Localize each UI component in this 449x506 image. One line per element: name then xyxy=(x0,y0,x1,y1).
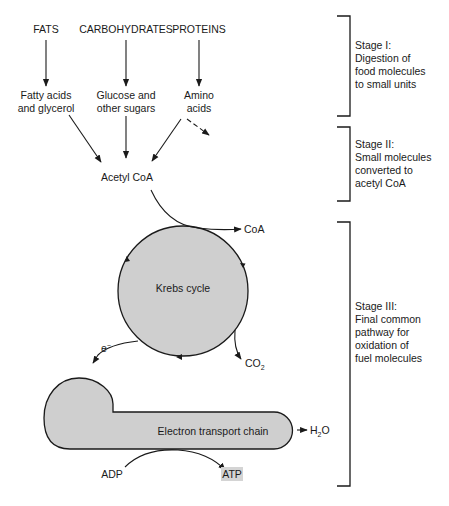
amino-acids-to-acetyl-arrow xyxy=(152,119,181,161)
stage-1-line2: food molecules xyxy=(355,65,426,77)
stage-1-line3: to small units xyxy=(355,78,416,90)
proteins-label: PROTEINS xyxy=(172,23,226,35)
carbohydrates-label: CARBOHYDRATES xyxy=(79,23,173,35)
co2-label: CO2 xyxy=(245,357,265,371)
amino-acids-line2: acids xyxy=(187,102,212,114)
electron-arrow xyxy=(93,341,138,363)
stage-3-line3: oxidation of xyxy=(355,339,409,351)
fatty-acids-line1: Fatty acids xyxy=(21,89,72,101)
amino-acids-other-fate-dashed-arrow xyxy=(187,119,209,135)
coa-label: CoA xyxy=(244,223,264,235)
stage-2-line2: converted to xyxy=(355,164,413,176)
stage-2-bracket xyxy=(337,127,350,201)
fatty-acids-line2: and glycerol xyxy=(18,102,75,114)
stage-1-bracket xyxy=(337,16,350,116)
electron-label: e− xyxy=(101,342,111,354)
glucose-line1: Glucose and xyxy=(97,89,156,101)
acetyl-coa-label: Acetyl CoA xyxy=(101,171,153,183)
stage-3-line1: Final common xyxy=(355,313,421,325)
atp-label: ATP xyxy=(222,468,242,480)
electron-transport-chain-shape xyxy=(44,378,293,449)
acetyl-coa-entry-arrow xyxy=(151,190,241,230)
krebs-cycle-label: Krebs cycle xyxy=(156,282,210,294)
amino-acids-line1: Amino xyxy=(184,89,214,101)
glucose-line2: other sugars xyxy=(97,102,155,114)
adp-label: ADP xyxy=(101,468,123,480)
stage-3-line4: fuel molecules xyxy=(355,352,422,364)
stage-3-bracket xyxy=(337,222,350,486)
stage-3-title: Stage III: xyxy=(355,300,397,312)
stage-1-title: Stage I: xyxy=(355,39,391,51)
stage-2-line3: acetyl CoA xyxy=(355,177,406,189)
co2-arrow xyxy=(235,330,241,359)
adp-to-atp-arrow xyxy=(125,450,225,470)
stage-3-line2: pathway for xyxy=(355,326,410,338)
etc-label: Electron transport chain xyxy=(158,425,269,437)
metabolism-stages-diagram: FATS CARBOHYDRATES PROTEINS Fatty acids … xyxy=(0,0,449,506)
fatty-acids-to-acetyl-arrow xyxy=(69,115,101,162)
fats-label: FATS xyxy=(33,23,58,35)
h2o-label: H2O xyxy=(310,424,330,438)
stage-1-line1: Digestion of xyxy=(355,52,411,64)
stage-2-line1: Small molecules xyxy=(355,151,431,163)
stage-2-title: Stage II: xyxy=(355,138,394,150)
